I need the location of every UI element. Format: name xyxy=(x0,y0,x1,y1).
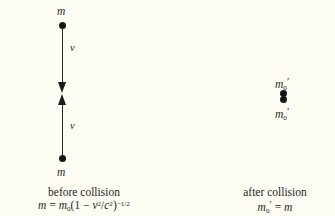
before-upper-track-line xyxy=(62,28,63,83)
before-collision-caption: before collision xyxy=(0,186,168,198)
after-collision-formula: m0′ = m xyxy=(215,199,335,216)
physics-collision-figure: m v v m before collision m = m0(1 − v2/c… xyxy=(0,0,335,216)
before-bottom-particle-dot xyxy=(59,155,66,162)
after-bottom-mass-prime: ′ xyxy=(287,105,289,117)
before-top-velocity-label: v xyxy=(70,43,75,54)
before-lower-arrowhead-up-icon xyxy=(58,94,66,105)
before-lower-track-line xyxy=(62,105,63,159)
before-upper-arrowhead-down-icon xyxy=(58,82,66,93)
formula-rest-mass: m xyxy=(59,199,67,211)
after-top-mass-prime: ′ xyxy=(287,75,289,87)
formula-outer-exponent: −1/2 xyxy=(117,200,130,208)
after-formula-lhs-base: m xyxy=(258,201,266,213)
before-top-mass-label: m xyxy=(57,6,65,18)
before-collision-formula: m = m0(1 − v2/c2)−1/2 xyxy=(0,199,168,213)
after-formula-rhs: m xyxy=(284,201,292,213)
after-merged-particle-dot-lower xyxy=(280,96,287,103)
before-bottom-mass-label: m xyxy=(57,167,65,179)
after-bottom-mass-label: m0′ xyxy=(275,106,289,122)
after-collision-caption: after collision xyxy=(215,186,335,198)
before-bottom-velocity-label: v xyxy=(70,121,75,132)
